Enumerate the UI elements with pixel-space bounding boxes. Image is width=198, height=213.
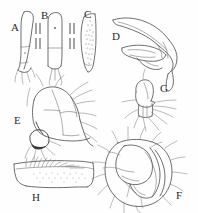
panel-label-h: H xyxy=(32,192,40,203)
panel-label-e: E xyxy=(14,115,21,126)
scale-bar-ab xyxy=(36,23,40,49)
panel-g-drawing xyxy=(122,69,176,131)
panel-e-drawing xyxy=(25,74,97,161)
panel-label-f: F xyxy=(176,190,182,201)
panel-h-drawing xyxy=(14,157,94,188)
panel-f-drawing xyxy=(92,127,187,213)
panel-label-a: A xyxy=(11,22,19,33)
panel-label-c: C xyxy=(84,9,91,20)
panel-b-drawing xyxy=(48,13,62,86)
panel-label-g: G xyxy=(160,83,168,94)
scale-bar-bc xyxy=(70,23,74,49)
panel-c-drawing xyxy=(81,14,96,72)
panel-label-d: D xyxy=(112,31,120,42)
figure-plate: A B C D E F G H xyxy=(0,0,198,213)
panel-label-b: B xyxy=(41,10,48,21)
plate-artwork xyxy=(0,0,198,213)
